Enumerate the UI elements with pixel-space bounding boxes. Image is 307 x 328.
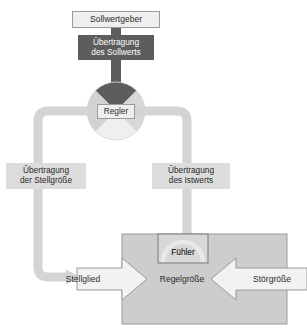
node-uebertragung-stellgroesse: Übertragung der Stellgröße — [6, 163, 86, 189]
node-uebertragung-istwert: Übertragung des Istwerts — [152, 163, 230, 189]
node-uebertragung-sollwert: Übertragung des Sollwerts — [78, 35, 154, 60]
control-loop-diagram: Sollwertgeber Übertragung des Sollwerts … — [0, 0, 307, 328]
label-stellglied: Stellglied — [52, 272, 114, 286]
node-sollwertgeber: Sollwertgeber — [72, 11, 160, 28]
node-regler: Regler — [97, 104, 135, 119]
node-fuehler: Fühler — [163, 245, 203, 260]
label-regelgroesse: Regelgröße — [142, 272, 222, 286]
label-stoergroesse: Störgröße — [240, 272, 304, 286]
